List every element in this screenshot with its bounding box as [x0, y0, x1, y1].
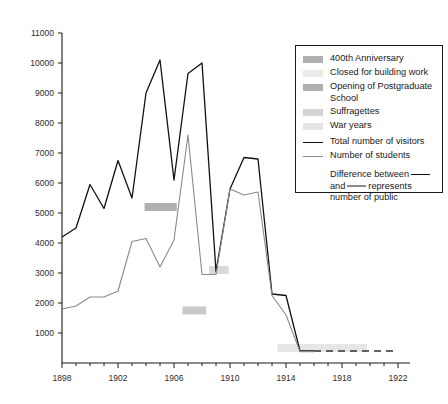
legend-swatch-postgraduate-school	[303, 84, 323, 91]
x-tick-label: 1902	[109, 373, 128, 383]
legend-difference-note: Difference between andrepresents number …	[303, 169, 436, 204]
note-dark-line-sample	[411, 174, 430, 175]
y-tick-label: 3000	[35, 268, 54, 278]
legend-label-war-years: War years	[330, 120, 436, 132]
legend-line-number-of-students	[303, 153, 323, 160]
legend-label-closed-building-work: Closed for building work	[330, 67, 436, 79]
legend-note-part1: Difference between	[330, 169, 409, 179]
legend-swatch-closed-building-work	[303, 70, 323, 77]
event-marker-opening-of-postgraduate-school	[209, 266, 229, 274]
legend-swatch-anniversary	[303, 56, 323, 63]
chart-legend: 400th Anniversary Closed for building wo…	[295, 45, 443, 193]
y-tick-label: 5000	[35, 208, 54, 218]
y-tick-label: 8000	[35, 118, 54, 128]
legend-swatch-war-years	[303, 123, 323, 130]
legend-item-total-visitors: Total number of visitors	[303, 136, 436, 148]
event-marker-400th-anniversary	[145, 203, 177, 211]
legend-item-number-of-students: Number of students	[303, 150, 436, 162]
x-tick-label: 1910	[221, 373, 240, 383]
legend-swatch-suffragettes	[303, 109, 323, 116]
series-line-number-of-students	[62, 135, 314, 352]
legend-line-total-visitors	[303, 139, 323, 146]
y-tick-label: 11000	[31, 28, 54, 38]
x-tick-label: 1918	[333, 373, 352, 383]
legend-label-total-visitors: Total number of visitors	[330, 136, 436, 148]
legend-note-part4: number of public	[330, 192, 398, 202]
legend-item-suffragettes: Suffragettes	[303, 106, 436, 118]
x-tick-label: 1906	[165, 373, 184, 383]
legend-note-part2: and	[330, 181, 345, 191]
legend-item-anniversary: 400th Anniversary	[303, 53, 436, 65]
legend-item-closed-building-work: Closed for building work	[303, 67, 436, 79]
y-tick-label: 2000	[35, 298, 54, 308]
x-tick-label: 1914	[277, 373, 296, 383]
y-tick-label: 10000	[30, 58, 54, 68]
y-tick-label: 1000	[35, 328, 54, 338]
y-tick-label: 4000	[35, 238, 54, 248]
x-tick-label: 1898	[53, 373, 72, 383]
legend-item-postgraduate-school: Opening of Postgraduate School	[303, 81, 436, 104]
legend-label-anniversary: 400th Anniversary	[330, 53, 436, 65]
note-gray-line-sample	[347, 185, 366, 186]
x-tick-label: 1922	[389, 373, 408, 383]
y-tick-label: 9000	[35, 88, 54, 98]
y-tick-label: 7000	[35, 148, 54, 158]
y-tick-label: 6000	[35, 178, 54, 188]
legend-note-part3: represents	[368, 181, 411, 191]
legend-label-number-of-students: Number of students	[330, 150, 436, 162]
legend-label-postgraduate-school: Opening of Postgraduate School	[330, 81, 436, 104]
event-marker-suffragettes	[182, 307, 206, 315]
legend-label-suffragettes: Suffragettes	[330, 106, 436, 118]
legend-item-war-years: War years	[303, 120, 436, 132]
